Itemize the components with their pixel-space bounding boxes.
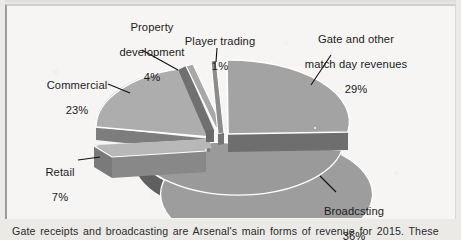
label-player-trading-line1: Player trading — [184, 35, 256, 48]
label-broadcsting-line1: Broadcsting — [316, 205, 392, 218]
label-commercial-value: 23% — [38, 104, 116, 117]
label-gate-line2: match day revenues — [288, 58, 424, 71]
label-commercial-line1: Commercial — [38, 79, 116, 92]
label-retail-line1: Retail — [36, 166, 84, 179]
label-retail-value: 7% — [36, 191, 84, 204]
label-player-trading: Player trading 1% — [184, 22, 256, 85]
label-gate-value: 29% — [288, 83, 424, 96]
label-gate-line1: Gate and other — [288, 33, 424, 46]
pie-slice-retail[interactable] — [94, 139, 212, 178]
figure-container: Property development 4% Player trading 1… — [0, 0, 461, 240]
figure-caption: Gate receipts and broadcasting are Arsen… — [12, 225, 453, 237]
label-player-trading-value: 1% — [184, 60, 256, 73]
label-gate-and-other-match-day-revenues: Gate and other match day revenues 29% — [288, 20, 424, 108]
label-retail: Retail 7% — [36, 153, 84, 216]
label-commercial: Commercial 23% — [38, 66, 116, 129]
